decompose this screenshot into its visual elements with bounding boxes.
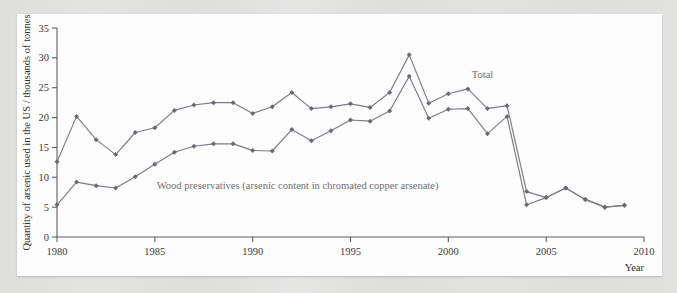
data-point-marker xyxy=(309,138,314,143)
x-tick-label: 2005 xyxy=(536,246,557,257)
data-point-marker xyxy=(211,100,216,105)
data-point-marker xyxy=(524,189,529,194)
data-point-marker xyxy=(250,148,255,153)
data-point-marker xyxy=(172,150,177,155)
data-point-marker xyxy=(387,109,392,114)
total-label: Total xyxy=(472,69,494,80)
chart-axes: 0510152025303519801985199019952000200520… xyxy=(39,23,655,257)
page-container: 0510152025303519801985199019952000200520… xyxy=(0,0,677,293)
data-point-marker xyxy=(524,202,529,207)
x-tick-label: 1985 xyxy=(144,246,165,257)
data-point-marker xyxy=(544,195,549,200)
data-point-marker xyxy=(426,101,431,106)
x-axis-title: Year xyxy=(625,262,645,273)
data-point-marker xyxy=(602,205,607,210)
x-tick-label: 1980 xyxy=(47,246,68,257)
data-point-marker xyxy=(55,159,60,164)
y-tick-label: 30 xyxy=(39,52,50,63)
data-point-marker xyxy=(583,197,588,202)
data-point-marker xyxy=(446,107,451,112)
data-point-marker xyxy=(446,91,451,96)
chart-axis-titles: Quantity of arsenic used in the US / tho… xyxy=(21,14,644,273)
y-tick-label: 25 xyxy=(39,82,50,93)
y-tick-label: 15 xyxy=(39,142,50,153)
line-chart: 0510152025303519801985199019952000200520… xyxy=(17,14,662,276)
data-point-marker xyxy=(211,141,216,146)
data-point-marker xyxy=(348,101,353,106)
data-point-marker xyxy=(191,103,196,108)
y-tick-label: 35 xyxy=(39,23,50,34)
data-point-marker xyxy=(622,203,627,208)
data-point-marker xyxy=(328,104,333,109)
data-point-marker xyxy=(426,116,431,121)
wood-preservatives-label: Wood preservatives (arsenic content in c… xyxy=(157,180,439,192)
x-tick-label: 2010 xyxy=(634,246,655,257)
data-point-marker xyxy=(328,128,333,133)
data-point-marker xyxy=(407,74,412,79)
data-point-marker xyxy=(368,119,373,124)
data-point-marker xyxy=(250,111,255,116)
x-tick-label: 2000 xyxy=(438,246,459,257)
data-point-marker xyxy=(563,186,568,191)
y-axis-title: Quantity of arsenic used in the US / tho… xyxy=(21,14,32,250)
y-tick-label: 20 xyxy=(39,112,50,123)
y-tick-label: 0 xyxy=(44,232,49,243)
y-tick-label: 5 xyxy=(44,202,49,213)
data-point-marker xyxy=(407,52,412,57)
data-point-marker xyxy=(113,186,118,191)
y-tick-label: 10 xyxy=(39,172,50,183)
data-point-marker xyxy=(505,103,510,108)
data-point-marker xyxy=(231,141,236,146)
data-point-marker xyxy=(94,183,99,188)
chart-annotations: TotalWood preservatives (arsenic content… xyxy=(157,69,494,192)
x-tick-label: 1995 xyxy=(340,246,361,257)
data-point-marker xyxy=(191,144,196,149)
data-point-marker xyxy=(231,100,236,105)
figure-panel: 0510152025303519801985199019952000200520… xyxy=(17,14,662,276)
data-point-marker xyxy=(348,117,353,122)
x-tick-label: 1990 xyxy=(242,246,263,257)
